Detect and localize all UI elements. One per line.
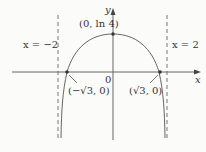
point-max [111,32,114,35]
graph-svg: y x 0 (0, ln 4) x = −2 x = 2 (−√3, 0) (√… [0,0,206,152]
y-axis-label: y [104,4,111,15]
right-intercept-label: (√3, 0) [129,85,162,96]
y-axis-arrow-icon [111,8,116,15]
point-right-intercept [158,70,161,73]
left-intercept-label: (−√3, 0) [68,85,110,96]
asymptote-right-label: x = 2 [172,39,199,50]
asymptote-left-label: x = −2 [23,39,58,50]
pointer-right [150,75,158,83]
max-point-label: (0, ln 4) [79,18,119,29]
pointer-left [69,75,77,83]
graph-figure: y x 0 (0, ln 4) x = −2 x = 2 (−√3, 0) (√… [0,0,206,152]
x-axis-label: x [195,74,201,85]
origin-label: 0 [105,74,111,85]
point-left-intercept [65,70,68,73]
